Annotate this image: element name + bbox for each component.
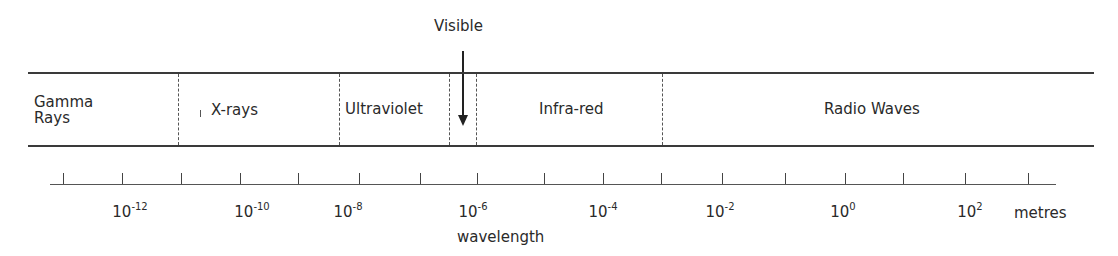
visible-arrow-shaft bbox=[462, 51, 464, 116]
divider-visible-ir bbox=[476, 74, 477, 145]
axis-tick bbox=[477, 173, 478, 184]
visible-callout-label: Visible bbox=[434, 17, 483, 35]
axis-tick bbox=[359, 173, 360, 184]
divider-gamma-xray bbox=[178, 74, 179, 145]
axis-tick bbox=[122, 173, 123, 184]
axis-tick bbox=[661, 173, 662, 184]
tick-label-1e-12: 10-12 bbox=[112, 201, 147, 221]
tick-label-1e-6: 10-6 bbox=[458, 201, 487, 221]
axis-unit-label: metres bbox=[1014, 204, 1067, 222]
wavelength-axis-line bbox=[50, 184, 1056, 185]
divider-uv-visible bbox=[449, 74, 450, 145]
axis-tick bbox=[965, 173, 966, 184]
band-gamma-label: Gamma Rays bbox=[34, 94, 93, 126]
tick-label-1e-8: 10-8 bbox=[333, 201, 362, 221]
tick-label-1e-10: 10-10 bbox=[234, 201, 269, 221]
tick-label-1e0: 100 bbox=[830, 201, 855, 221]
axis-tick bbox=[603, 173, 604, 184]
band-xrays-label: X-rays bbox=[211, 102, 258, 118]
tick-label-1e-2: 10-2 bbox=[705, 201, 734, 221]
xray-small-mark bbox=[200, 110, 201, 117]
axis-tick bbox=[420, 173, 421, 184]
axis-tick bbox=[181, 173, 182, 184]
axis-tick bbox=[1028, 173, 1029, 184]
visible-arrow-icon bbox=[458, 115, 468, 126]
band-ultraviolet-label: Ultraviolet bbox=[345, 101, 423, 117]
band-infrared-label: Infra-red bbox=[539, 101, 604, 117]
band-radio-label: Radio Waves bbox=[824, 101, 920, 117]
axis-tick bbox=[785, 173, 786, 184]
divider-xray-uv bbox=[339, 74, 340, 145]
band-bottom-border bbox=[28, 145, 1094, 147]
axis-tick bbox=[63, 173, 64, 184]
band-gamma-line2: Rays bbox=[34, 110, 93, 126]
axis-title: wavelength bbox=[457, 228, 544, 246]
tick-label-1e-4: 10-4 bbox=[588, 201, 617, 221]
axis-tick bbox=[903, 173, 904, 184]
axis-tick bbox=[722, 173, 723, 184]
axis-tick bbox=[544, 173, 545, 184]
band-gamma-line1: Gamma bbox=[34, 94, 93, 110]
tick-label-1e2: 102 bbox=[957, 201, 982, 221]
divider-ir-radio bbox=[662, 74, 663, 145]
axis-tick bbox=[845, 173, 846, 184]
band-top-border bbox=[28, 72, 1094, 74]
axis-tick bbox=[240, 173, 241, 184]
axis-tick bbox=[298, 173, 299, 184]
